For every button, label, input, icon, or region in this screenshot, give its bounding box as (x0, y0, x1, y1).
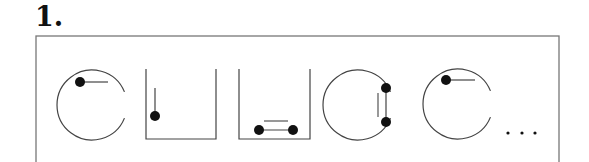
panel-3 (239, 69, 310, 139)
broken-circle-track (323, 70, 390, 140)
figure-frame (36, 36, 559, 162)
broken-circle-track (57, 70, 124, 140)
panel-1 (57, 70, 124, 140)
ball-icon (288, 125, 298, 135)
panel-4 (323, 70, 391, 140)
ball-icon (381, 83, 391, 93)
ellipsis-dot (533, 131, 536, 134)
panel-2 (146, 69, 216, 139)
panel-group (57, 69, 490, 140)
ball-icon (441, 75, 451, 85)
ball-icon (254, 125, 264, 135)
ball-icon (75, 77, 85, 87)
ellipsis-dot (520, 131, 523, 134)
panel-5 (423, 69, 490, 139)
ellipsis-dot (506, 131, 509, 134)
open-container (146, 69, 216, 139)
ball-icon (150, 111, 160, 121)
open-container (239, 69, 310, 139)
figure-sequence (0, 0, 589, 162)
ellipsis-dots (506, 131, 536, 134)
ball-icon (381, 117, 391, 127)
